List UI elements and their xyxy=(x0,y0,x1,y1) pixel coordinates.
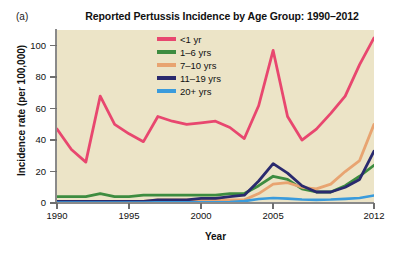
x-tick-label: 2000 xyxy=(181,210,221,221)
y-tick-mark xyxy=(50,139,57,141)
y-tick-mark xyxy=(50,108,57,110)
legend-color-swatch xyxy=(157,76,176,80)
legend-item: 20+ yrs xyxy=(157,85,221,97)
x-axis-line xyxy=(55,202,374,204)
x-tick-mark xyxy=(200,203,202,209)
x-tick-label: 2012 xyxy=(354,210,394,221)
panel-label: (a) xyxy=(16,11,28,22)
legend-color-swatch xyxy=(157,63,176,67)
chart-title: Reported Pertussis Incidence by Age Grou… xyxy=(57,10,387,22)
legend-label: 7–10 yrs xyxy=(180,60,216,71)
legend-label: 20+ yrs xyxy=(180,86,211,97)
legend-item: 7–10 yrs xyxy=(157,59,221,71)
legend-color-swatch xyxy=(157,50,176,54)
legend-color-swatch xyxy=(157,37,176,41)
x-tick-mark xyxy=(56,203,58,209)
legend-label: 1–6 yrs xyxy=(180,47,211,58)
x-tick-mark xyxy=(128,203,130,209)
x-axis-label: Year xyxy=(57,231,374,242)
chart-legend: <1 yr1–6 yrs7–10 yrs11–19 yrs20+ yrs xyxy=(157,33,221,98)
x-tick-label: 2005 xyxy=(253,210,293,221)
legend-color-swatch xyxy=(157,89,176,93)
y-tick-label: 0 xyxy=(16,197,46,208)
y-tick-mark xyxy=(50,45,57,47)
y-axis-label: Incidence rate (per 100,000) xyxy=(16,36,27,186)
legend-label: 11–19 yrs xyxy=(180,73,221,84)
figure-container: (a) Reported Pertussis Incidence by Age … xyxy=(0,0,394,256)
y-tick-mark xyxy=(50,76,57,78)
legend-item: 1–6 yrs xyxy=(157,46,221,58)
x-tick-label: 1990 xyxy=(37,210,77,221)
legend-item: 11–19 yrs xyxy=(157,72,221,84)
x-tick-mark xyxy=(272,203,274,209)
series-line-7-10-yrs xyxy=(57,124,374,201)
y-axis-line xyxy=(55,29,57,204)
legend-item: <1 yr xyxy=(157,33,221,45)
x-tick-mark xyxy=(373,203,375,209)
legend-label: <1 yr xyxy=(180,34,201,45)
y-tick-mark xyxy=(50,171,57,173)
x-tick-label: 1995 xyxy=(109,210,149,221)
